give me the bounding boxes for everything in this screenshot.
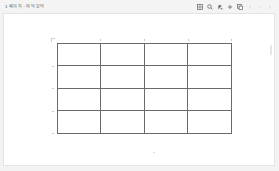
- table-cell[interactable]: [145, 44, 188, 66]
- table-cell[interactable]: [101, 111, 144, 133]
- table-cell[interactable]: [145, 111, 188, 133]
- table-cell[interactable]: [101, 44, 144, 66]
- more-icon[interactable]: [267, 4, 273, 10]
- paint-icon[interactable]: [217, 4, 223, 10]
- column-ruler-tick: [144, 39, 145, 41]
- column-ruler-tick: [231, 39, 232, 41]
- document-title: 1 페이지 - 여덕 모덕: [5, 3, 45, 9]
- add-icon[interactable]: [227, 4, 233, 10]
- row-ruler-tick: [52, 88, 54, 89]
- table-cell[interactable]: [101, 66, 144, 88]
- toolbar: [197, 3, 273, 10]
- copy-icon[interactable]: [237, 4, 243, 10]
- table-cell[interactable]: [188, 111, 231, 133]
- undo-icon[interactable]: [247, 4, 253, 10]
- redo-icon[interactable]: [257, 4, 263, 10]
- row-ruler-tick: [52, 66, 54, 67]
- column-ruler-tick: [188, 39, 189, 41]
- table-select-handle[interactable]: [51, 38, 55, 42]
- search-icon[interactable]: [207, 4, 213, 10]
- table-cell[interactable]: [145, 89, 188, 111]
- table-icon[interactable]: [197, 4, 203, 10]
- table-cell[interactable]: [58, 44, 101, 66]
- table-cell[interactable]: [58, 111, 101, 133]
- table-cell[interactable]: [101, 89, 144, 111]
- table-cell[interactable]: [188, 66, 231, 88]
- row-ruler-tick: [52, 111, 54, 112]
- table-cell[interactable]: [58, 89, 101, 111]
- row-ruler-tick: [52, 133, 54, 134]
- table-cell[interactable]: [188, 89, 231, 111]
- page-indicator: [153, 152, 155, 153]
- vertical-scrollbar[interactable]: [270, 45, 272, 55]
- column-ruler-tick: [100, 39, 101, 41]
- table-cell[interactable]: [188, 44, 231, 66]
- table-cell[interactable]: [145, 66, 188, 88]
- table-cell[interactable]: [58, 66, 101, 88]
- title-bar: 1 페이지 - 여덕 모덕: [0, 0, 279, 12]
- table[interactable]: [57, 43, 232, 134]
